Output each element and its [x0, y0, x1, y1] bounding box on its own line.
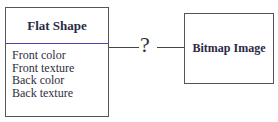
connector-line-left — [109, 47, 139, 48]
connector-line-right — [157, 47, 184, 48]
attribute-list: Front color Front texture Back color Bac… — [6, 44, 108, 99]
question-mark-label: ? — [140, 34, 150, 56]
flat-shape-box: Flat Shape Front color Front texture Bac… — [5, 7, 109, 117]
flat-shape-title: Flat Shape — [6, 8, 108, 43]
bitmap-image-box: Bitmap Image — [184, 13, 274, 84]
bitmap-image-title: Bitmap Image — [193, 41, 266, 56]
attribute-item: Front color — [12, 49, 108, 62]
attribute-item: Back texture — [12, 87, 108, 100]
attribute-item: Back color — [12, 74, 108, 87]
